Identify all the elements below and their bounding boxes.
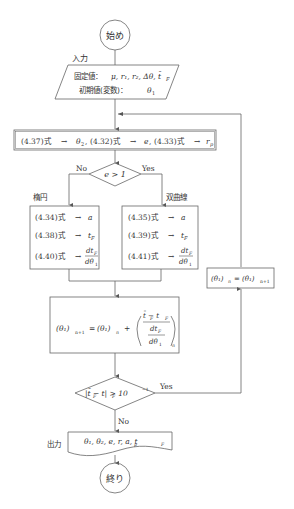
output-sub-r: p — [134, 442, 137, 447]
svg-text:→: → — [194, 137, 200, 146]
svg-text:1: 1 — [95, 262, 98, 267]
svg-text:→: → — [61, 137, 67, 146]
output-side-label: 出力 — [47, 439, 61, 449]
ellipse-box-text: (4.34)式 → a (4.38)式 → t F (4.40)式 → dt F… — [35, 212, 98, 267]
right-paren — [171, 316, 175, 346]
input-initial-label: 初期値(変数)： — [79, 85, 127, 95]
svg-text:n: n — [116, 330, 119, 335]
svg-text:n+1: n+1 — [75, 330, 85, 335]
svg-text:→: → — [168, 213, 174, 222]
svg-text:a: a — [88, 213, 92, 222]
left-paren — [137, 316, 141, 346]
ellipse-branch-title: 楕円 — [33, 192, 47, 202]
svg-text:(4.37)式: (4.37)式 — [21, 136, 52, 146]
decision-1-no: No — [76, 164, 88, 173]
svg-text:n: n — [228, 279, 231, 284]
merge-connector — [69, 269, 161, 281]
yes-branch-connector — [141, 174, 162, 205]
svg-text:(4.35)式: (4.35)式 — [128, 212, 159, 222]
svg-text:(θ₁): (θ₁) — [97, 324, 110, 333]
input-initial-sub: 1 — [152, 90, 155, 96]
input-fixed-vars: μ, r₁, r₂, Δθ, t̄ — [111, 71, 162, 81]
svg-text:(4.33)式: (4.33)式 — [154, 136, 185, 146]
end-label: 終り — [106, 473, 124, 484]
svg-text:dθ: dθ — [149, 338, 158, 346]
svg-text:a: a — [181, 213, 185, 222]
input-side-label: 入力 — [72, 53, 88, 63]
decision-1-condition: e > 1 — [104, 170, 126, 179]
svg-text:dθ: dθ — [179, 258, 188, 266]
svg-text:→: → — [130, 137, 136, 146]
svg-text:+: + — [124, 324, 130, 333]
svg-text:2: 2 — [81, 141, 84, 147]
output-sub-t: F — [160, 442, 165, 447]
svg-text:F: F — [164, 316, 169, 321]
input-fixed-sub: F — [165, 76, 170, 82]
svg-text:→: → — [75, 231, 81, 240]
svg-text:n: n — [172, 343, 175, 348]
decision-2-yes: Yes — [159, 382, 173, 391]
input-fixed-label: 固定値： — [74, 71, 102, 81]
output-values: θ₁, θ₂, e, r, a, t — [84, 437, 139, 446]
svg-text:|t̄ − t| > 10: |t̄ − t| > 10 — [85, 388, 128, 398]
svg-text:dt: dt — [86, 247, 93, 255]
no-branch-connector — [69, 174, 89, 205]
svg-text:n+1: n+1 — [260, 279, 270, 284]
svg-text:,: , — [149, 137, 151, 146]
svg-text:F: F — [188, 251, 193, 256]
svg-text:(4.34)式: (4.34)式 — [35, 212, 66, 222]
flowchart: 始め 入力 固定値： μ, r₁, r₂, Δθ, t̄ F 初期値(変数)： … — [0, 0, 294, 509]
svg-text:1: 1 — [189, 262, 192, 267]
svg-text:(θ₁): (θ₁) — [211, 275, 224, 283]
svg-text:F: F — [90, 235, 95, 241]
svg-text:dθ: dθ — [85, 258, 94, 266]
hyperbola-branch-title: 双曲線 — [166, 192, 188, 202]
svg-text:→: → — [75, 252, 81, 261]
svg-text:(4.39)式: (4.39)式 — [128, 230, 159, 240]
process-1-text: (4.37)式 → θ 2 , (4.32)式 → e , (4.33)式 → … — [21, 136, 214, 148]
yes-loop-connector — [155, 289, 241, 393]
svg-text:F: F — [93, 251, 98, 256]
svg-text:,: , — [85, 137, 87, 146]
svg-text:p: p — [210, 141, 214, 148]
svg-text:(4.40)式: (4.40)式 — [35, 251, 66, 261]
svg-text:(4.41)式: (4.41)式 — [128, 251, 159, 261]
start-label: 始め — [106, 30, 124, 41]
decision-2-text: |t̄ − t| > 10 F F −1 — [85, 387, 149, 399]
decision-1-yes: Yes — [141, 164, 155, 173]
svg-text:→: → — [168, 231, 174, 240]
svg-text:→: → — [75, 213, 81, 222]
hyperbola-box-text: (4.35)式 → a (4.39)式 → t F (4.41)式 → dt F… — [128, 212, 193, 267]
svg-text:1: 1 — [159, 342, 162, 347]
svg-text:=: = — [234, 275, 240, 283]
svg-text:(θ₁): (θ₁) — [242, 275, 255, 283]
update-formula: (θ₁) n+1 = (θ₁) n + t̄ − t F F dt F dθ 1… — [56, 310, 175, 348]
svg-text:(4.38)式: (4.38)式 — [35, 230, 66, 240]
svg-text:F: F — [157, 329, 162, 334]
svg-text:−1: −1 — [142, 387, 149, 392]
decision-2-no: No — [118, 417, 130, 426]
svg-text:→: → — [168, 252, 174, 261]
svg-text:(4.32)式: (4.32)式 — [90, 136, 121, 146]
svg-text:(θ₁): (θ₁) — [56, 324, 69, 333]
svg-text:dt: dt — [150, 325, 157, 333]
loop-box-text: (θ₁) n = (θ₁) n+1 — [211, 275, 270, 284]
svg-text:=: = — [89, 324, 95, 333]
svg-text:F: F — [183, 235, 188, 241]
svg-text:dt: dt — [181, 247, 188, 255]
